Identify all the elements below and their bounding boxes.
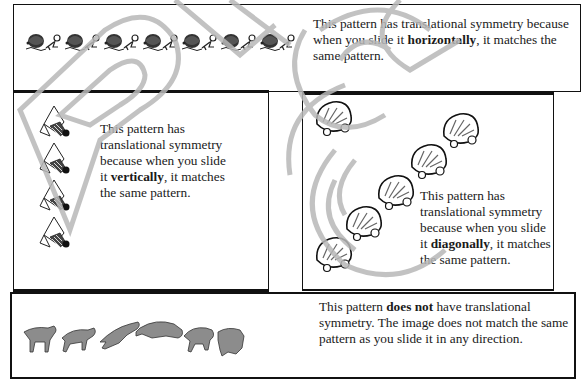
diagonal-emphasis: diagonally <box>431 236 490 251</box>
no-symmetry-text-start: This pattern <box>319 299 386 314</box>
bird-column-pattern-icon <box>36 104 76 264</box>
horizontal-emphasis: horizontally <box>408 32 477 47</box>
vertical-description: This pattern has translational symmetry … <box>100 121 230 201</box>
no-symmetry-description: This pattern does not have translational… <box>319 299 569 347</box>
vertical-emphasis: vertically <box>111 169 164 184</box>
horizontal-description: This pattern has translational symmetry … <box>313 16 573 64</box>
saber-tooth-cat-sequence-icon <box>22 318 262 358</box>
no-symmetry-emphasis: does not <box>386 299 433 314</box>
diagonal-description: This pattern has translational symmetry … <box>420 188 555 268</box>
fish-border-pattern-icon <box>22 28 297 56</box>
